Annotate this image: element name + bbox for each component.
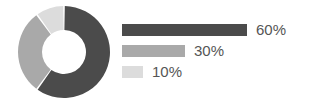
legend-item[interactable]: 60% — [122, 19, 286, 40]
legend-item[interactable]: 10% — [122, 61, 182, 82]
legend-item[interactable]: 30% — [122, 40, 224, 61]
donut-chart — [16, 4, 112, 100]
legend-swatch-bar — [122, 66, 143, 78]
chart-legend: 60% 30% 10% — [122, 19, 308, 93]
legend-item-label: 60% — [256, 22, 286, 37]
legend-swatch-bar — [122, 24, 247, 36]
legend-item-label: 10% — [152, 64, 182, 79]
donut-chart-infographic: 60% 30% 10% — [0, 0, 309, 106]
legend-item-label: 30% — [194, 43, 224, 58]
donut-slice[interactable] — [18, 15, 51, 88]
legend-swatch-bar — [122, 45, 185, 57]
donut-chart-svg — [16, 4, 112, 100]
